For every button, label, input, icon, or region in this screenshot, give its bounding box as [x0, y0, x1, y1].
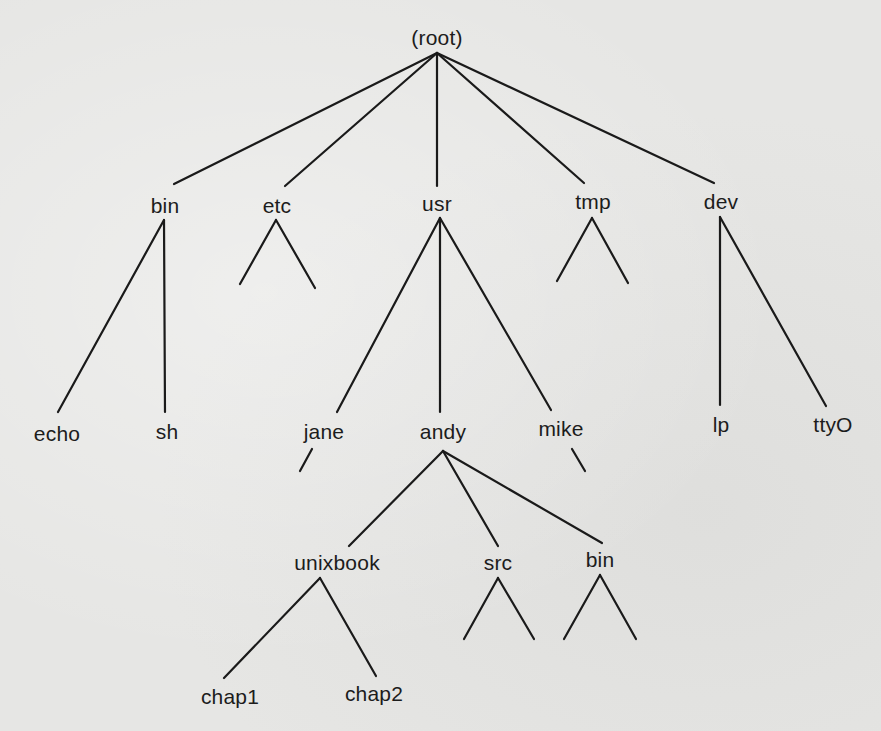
- edge-jane-unnamed-left: [300, 449, 312, 471]
- node-mike: mike: [538, 418, 583, 439]
- edge-bin-sh: [164, 220, 165, 412]
- node-jane: jane: [304, 421, 345, 442]
- edge-tmp-unnamed-left: [557, 218, 592, 281]
- diagram-canvas: (root) bin etc usr tmp dev echo sh jane …: [0, 0, 881, 731]
- edge-root-tmp: [437, 53, 584, 183]
- edge-src-unnamed-right: [498, 578, 534, 639]
- edge-tmp-unnamed-right: [592, 218, 628, 283]
- node-root: (root): [411, 27, 462, 48]
- node-lp: lp: [713, 414, 730, 435]
- node-sh: sh: [156, 421, 179, 442]
- node-src: src: [484, 552, 513, 573]
- edge-src-unnamed-left: [464, 578, 498, 639]
- edge-bin-echo: [58, 220, 164, 412]
- edge-unixbook-chap1: [224, 578, 320, 678]
- node-andy-bin: bin: [586, 549, 615, 570]
- node-tty0: ttyO: [813, 414, 852, 435]
- edge-usr-jane: [337, 218, 440, 412]
- node-etc: etc: [263, 195, 292, 216]
- edge-usr-mike: [440, 218, 551, 410]
- node-andy: andy: [420, 421, 466, 442]
- edge-andy-bin2: [443, 451, 602, 543]
- edge-bin2-unnamed-left: [564, 575, 600, 639]
- node-tmp: tmp: [575, 191, 611, 212]
- edge-andy-src: [443, 451, 498, 546]
- tree-edges: [0, 0, 881, 731]
- edge-root-dev: [437, 53, 714, 183]
- edge-mike-unnamed-right: [572, 449, 585, 471]
- edge-root-etc: [285, 53, 437, 186]
- node-echo: echo: [34, 423, 80, 444]
- edge-bin2-unnamed-right: [600, 575, 636, 639]
- node-chap1: chap1: [201, 686, 259, 707]
- node-chap2: chap2: [345, 683, 403, 704]
- edge-etc-unnamed-left: [240, 220, 276, 284]
- node-unixbook: unixbook: [294, 552, 380, 573]
- edge-unixbook-chap2: [320, 578, 376, 676]
- node-dev: dev: [704, 191, 738, 212]
- edge-andy-unixbook: [349, 451, 443, 546]
- edge-root-bin: [174, 53, 437, 184]
- node-usr: usr: [422, 193, 452, 214]
- edge-etc-unnamed-right: [276, 220, 315, 288]
- node-bin: bin: [151, 195, 180, 216]
- edge-dev-ttyO: [720, 217, 826, 406]
